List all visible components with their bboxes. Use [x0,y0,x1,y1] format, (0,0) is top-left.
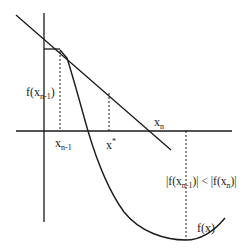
secant-line [16,15,171,150]
label-fx: f(x) [197,222,215,234]
diagram-canvas [0,0,249,252]
label-x-star: x* [106,138,116,151]
label-f-xn-minus-1: f(xn-1) [26,86,55,101]
label-x-n: xn [154,116,164,131]
label-inequality: |f(xn-1)| < |f(xn)| [166,176,237,190]
label-x-n-minus-1: xn-1 [55,137,72,152]
function-curve [60,50,225,240]
